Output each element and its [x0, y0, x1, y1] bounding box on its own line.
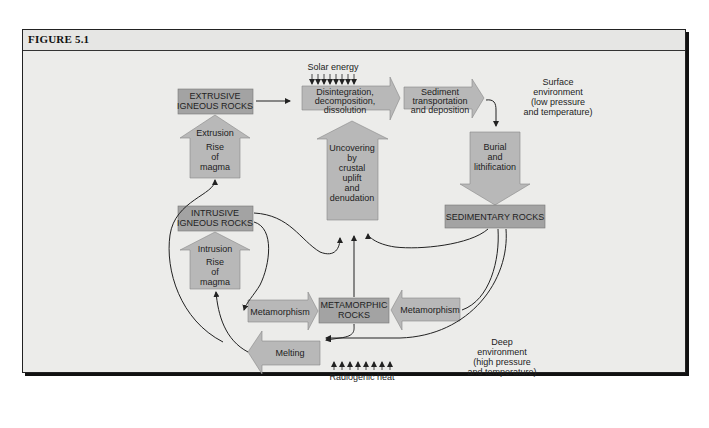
disintegration-arrow: Disintegration, decomposition, dissoluti… — [302, 77, 400, 120]
metamorphic-rocks-box: METAMORPHIC ROCKS — [319, 298, 389, 323]
svg-text:and deposition: and deposition — [411, 105, 470, 115]
svg-text:Melting: Melting — [275, 348, 304, 358]
svg-text:METAMORPHIC: METAMORPHIC — [321, 300, 388, 310]
svg-text:by: by — [347, 153, 357, 163]
svg-text:and temperature): and temperature) — [467, 367, 536, 377]
svg-text:SEDIMENTARY ROCKS: SEDIMENTARY ROCKS — [446, 212, 545, 222]
extrusion-arrow: Extrusion Rise of magma — [180, 115, 250, 178]
melting-arrow: Melting — [248, 331, 320, 374]
svg-text:environment: environment — [477, 347, 527, 357]
svg-text:INTRUSIVE: INTRUSIVE — [191, 208, 239, 218]
intrusion-arrow: Intrusion Rise of magma — [180, 232, 250, 289]
svg-text:ROCKS: ROCKS — [338, 310, 370, 320]
svg-text:Metamorphism: Metamorphism — [400, 305, 460, 315]
svg-text:uplift: uplift — [342, 173, 362, 183]
rock-cycle-diagram: Solar energy Disintegration, decompositi… — [0, 0, 709, 428]
sedimentary-rocks-box: SEDIMENTARY ROCKS — [445, 205, 545, 228]
radiogenic-heat-label: Radiogenic heat — [329, 372, 395, 382]
svg-text:of: of — [211, 267, 219, 277]
svg-text:IGNEOUS ROCKS: IGNEOUS ROCKS — [177, 218, 253, 228]
deep-environment-label: Deep environment (high pressure and temp… — [467, 337, 536, 377]
metamorphism-left-arrow: Metamorphism — [248, 292, 318, 330]
svg-text:IGNEOUS ROCKS: IGNEOUS ROCKS — [177, 101, 253, 111]
svg-text:and: and — [344, 183, 359, 193]
intrusive-igneous-rocks-box: INTRUSIVE IGNEOUS ROCKS — [177, 206, 253, 231]
svg-text:environment: environment — [533, 87, 583, 97]
uncovering-arrow: Uncovering by crustal uplift and denudat… — [317, 121, 388, 220]
svg-text:Deep: Deep — [491, 337, 513, 347]
svg-text:Surface: Surface — [542, 77, 573, 87]
solar-energy-arrows-icon — [312, 74, 354, 84]
svg-text:(low pressure: (low pressure — [531, 97, 585, 107]
svg-text:Extrusion: Extrusion — [196, 128, 234, 138]
svg-text:denudation: denudation — [330, 193, 375, 203]
svg-text:Metamorphism: Metamorphism — [250, 307, 310, 317]
radiogenic-heat-arrows-icon — [334, 362, 390, 370]
svg-text:lithification: lithification — [474, 162, 516, 172]
svg-text:and: and — [487, 152, 502, 162]
extrusive-igneous-rocks-box: EXTRUSIVE IGNEOUS ROCKS — [177, 89, 253, 114]
svg-text:EXTRUSIVE: EXTRUSIVE — [189, 91, 240, 101]
svg-text:Uncovering: Uncovering — [329, 143, 375, 153]
svg-text:Rise: Rise — [206, 257, 224, 267]
svg-text:and temperature): and temperature) — [523, 107, 592, 117]
solar-energy-label: Solar energy — [307, 62, 359, 72]
svg-text:of: of — [211, 152, 219, 162]
sediment-transport-arrow: Sediment transportation and deposition — [404, 79, 484, 118]
svg-text:magma: magma — [200, 277, 230, 287]
svg-text:Intrusion: Intrusion — [198, 244, 233, 254]
svg-text:magma: magma — [200, 162, 230, 172]
svg-text:(high pressure: (high pressure — [473, 357, 531, 367]
svg-text:dissolution: dissolution — [324, 105, 367, 115]
surface-environment-label: Surface environment (low pressure and te… — [523, 77, 592, 117]
svg-text:Burial: Burial — [483, 142, 506, 152]
svg-text:Rise: Rise — [206, 142, 224, 152]
burial-arrow: Burial and lithification — [460, 132, 530, 205]
connector-arrow — [486, 100, 496, 126]
metamorphism-right-arrow: Metamorphism — [391, 290, 460, 330]
svg-text:crustal: crustal — [339, 163, 366, 173]
